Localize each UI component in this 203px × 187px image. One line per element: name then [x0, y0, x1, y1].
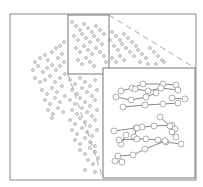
track-point [178, 141, 184, 147]
track-point [116, 137, 122, 143]
track-point [111, 128, 117, 134]
track-point [169, 95, 175, 101]
track-point [151, 123, 157, 129]
track-point [153, 90, 159, 96]
track-point [120, 104, 126, 110]
track-point [113, 94, 119, 100]
track-point [175, 87, 181, 93]
track-point [160, 101, 166, 107]
track-point [142, 102, 148, 108]
track-point [145, 88, 151, 94]
track-point [119, 159, 125, 165]
track-point [182, 96, 188, 102]
track-point [143, 136, 149, 142]
track-point [134, 136, 140, 142]
scatter-zoom-diagram [0, 0, 203, 187]
track-point [118, 88, 124, 94]
track-point [158, 85, 164, 91]
track-point [112, 158, 118, 164]
track-point [157, 114, 163, 120]
track-point [130, 152, 136, 158]
track-point [134, 125, 140, 131]
track-point [169, 129, 175, 135]
track-point [162, 138, 168, 144]
track-point [140, 81, 146, 87]
track-point [175, 100, 181, 106]
track-point [155, 137, 161, 143]
track-point [132, 86, 138, 92]
track-point [128, 97, 134, 103]
track-point [142, 146, 148, 152]
track-point [123, 132, 129, 138]
track-point [173, 134, 179, 140]
track-point [143, 94, 149, 100]
